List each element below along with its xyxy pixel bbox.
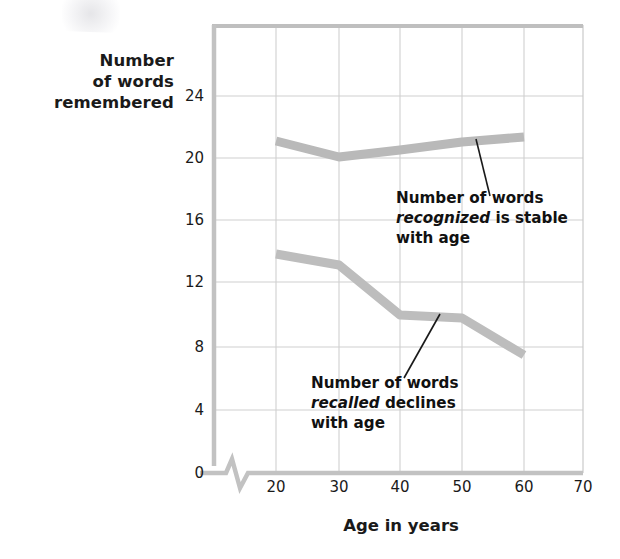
leader-line-recalled [404,314,440,378]
y-tick-label-8: 8 [170,338,204,356]
annotation-recalled-line-3: with age [311,413,459,433]
x-tick-label-60: 60 [504,478,544,496]
x-axis-title: Age in years [296,516,506,535]
annotation-recognized-emphasis: recognized [396,209,490,227]
x-tick-label-30: 30 [319,478,359,496]
memory-recall-chart: Number of words remembered 24 20 16 12 8… [0,0,620,559]
annotation-recognized: Number of words recognized is stable wit… [396,188,568,248]
annotation-recognized-line-2: recognized is stable [396,208,568,228]
annotation-recalled-line-2: recalled declines [311,393,459,413]
x-tick-label-50: 50 [442,478,482,496]
x-tick-label-40: 40 [380,478,420,496]
y-tick-label-4: 4 [170,401,204,419]
y-axis-title-line-3: remembered [54,93,174,112]
annotation-recalled-line-2-rest: declines [380,394,456,412]
x-tick-label-70: 70 [563,478,603,496]
annotation-recalled: Number of words recalled declines with a… [311,373,459,433]
y-tick-label-20: 20 [170,149,204,167]
x-tick-label-20: 20 [256,478,296,496]
y-gridlines [212,96,583,410]
annotation-recognized-line-3: with age [396,228,568,248]
y-tick-label-12: 12 [170,273,204,291]
annotation-recalled-line-1: Number of words [311,373,459,393]
annotation-recognized-line-2-rest: is stable [490,209,568,227]
y-axis-title-line-2: of words [93,72,174,91]
y-tick-label-0: 0 [170,464,204,482]
annotation-recalled-emphasis: recalled [311,394,380,412]
annotation-recognized-line-1: Number of words [396,188,568,208]
y-axis-title: Number of words remembered [22,50,174,113]
y-axis-title-line-1: Number [100,51,175,70]
y-tick-label-24: 24 [170,87,204,105]
y-tick-label-16: 16 [170,211,204,229]
